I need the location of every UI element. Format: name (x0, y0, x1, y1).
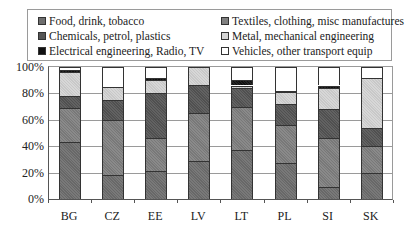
bar-segment (231, 150, 253, 199)
gridline (49, 146, 392, 147)
x-tick-label: CZ (92, 209, 132, 224)
bar-segment (275, 104, 297, 125)
legend-label: Metal, mechanical engineering (232, 29, 374, 43)
legend-swatch-metal-icon (221, 32, 229, 40)
legend-label: Vehicles, other transport equip (232, 44, 373, 58)
bar-segment-vehicles (318, 67, 340, 85)
bar-segment (318, 187, 340, 199)
legend-swatch-food-icon (38, 17, 46, 25)
bar-segment-vehicles (102, 67, 124, 87)
bar-segment-vehicles (231, 67, 253, 80)
bar-segment (361, 146, 383, 172)
x-tick (264, 200, 265, 203)
x-tick (91, 200, 92, 203)
bar-segment (275, 163, 297, 199)
bar-segment (59, 108, 81, 142)
bar-segment (102, 120, 124, 175)
legend-item-metal: Metal, mechanical engineering (221, 29, 374, 43)
x-tick-label: SI (308, 209, 348, 224)
bar-segment (318, 86, 340, 89)
bar-segment (59, 72, 81, 96)
bar-segment (188, 161, 210, 199)
bar-segment (275, 125, 297, 163)
legend-item-textiles: Textiles, clothing, misc manufactures (221, 14, 404, 28)
x-tick-label: BG (49, 209, 89, 224)
x-tick (350, 200, 351, 203)
x-tick (134, 200, 135, 203)
y-tick-label: 0% (4, 192, 44, 207)
bar-sk (361, 67, 383, 199)
legend-item-food: Food, drink, tobacco (38, 14, 144, 28)
bar-segment (145, 80, 167, 93)
y-tick-label: 80% (4, 86, 44, 101)
legend-item-chemicals: Chemicals, petrol, plastics (38, 29, 170, 43)
bar-pl (275, 67, 297, 199)
legend-label: Chemicals, petrol, plastics (49, 29, 170, 43)
x-tick-label: SK (351, 209, 391, 224)
bar-segment (188, 85, 210, 113)
bar-segment (188, 67, 210, 85)
bar-segment-vehicles (59, 67, 81, 70)
gridline (49, 120, 392, 121)
bar-segment (145, 93, 167, 138)
bar-segment (361, 78, 383, 128)
bar-segment (231, 80, 253, 85)
bar-ee (145, 67, 167, 199)
legend-item-electrical: Electrical engineering, Radio, TV (38, 44, 204, 58)
bar-segment (318, 138, 340, 187)
legend-swatch-vehicles-icon (221, 47, 229, 55)
bar-segment (102, 100, 124, 120)
bar-lv (188, 67, 210, 199)
bar-segment (102, 87, 124, 100)
legend-swatch-electrical-icon (38, 47, 46, 55)
bar-segment (231, 107, 253, 151)
bar-segment (59, 70, 81, 73)
bar-segment (361, 173, 383, 199)
legend-label: Textiles, clothing, misc manufactures (232, 14, 404, 28)
legend-label: Electrical engineering, Radio, TV (49, 44, 204, 58)
bar-cz (102, 67, 124, 199)
legend-swatch-chemicals-icon (38, 32, 46, 40)
bar-si (318, 67, 340, 199)
gridline (49, 93, 392, 94)
bar-segment-vehicles (275, 67, 297, 91)
x-tick (220, 200, 221, 203)
y-tick-label: 60% (4, 113, 44, 128)
x-tick (48, 200, 49, 203)
bar-segment-vehicles (145, 67, 167, 78)
gridline (49, 173, 392, 174)
bar-segment (188, 113, 210, 161)
x-tick-label: PL (265, 209, 305, 224)
legend-item-vehicles: Vehicles, other transport equip (221, 44, 373, 58)
y-tick-label: 100% (4, 60, 44, 75)
bar-segment (361, 128, 383, 146)
x-tick (177, 200, 178, 203)
y-tick-label: 40% (4, 139, 44, 154)
legend-label: Food, drink, tobacco (49, 14, 144, 28)
bar-segment (145, 78, 167, 81)
x-tick (307, 200, 308, 203)
bar-segment (231, 86, 253, 89)
bar-segment (318, 88, 340, 109)
bar-segment-vehicles (361, 67, 383, 78)
bar-segment (59, 142, 81, 199)
plot-area (48, 66, 393, 200)
bar-segment (102, 175, 124, 199)
x-tick (393, 200, 394, 203)
chart-legend: Food, drink, tobacco Textiles, clothing,… (27, 9, 392, 61)
bar-lt (231, 67, 253, 199)
bar-bg (59, 67, 81, 199)
legend-swatch-textiles-icon (221, 17, 229, 25)
bar-segment (318, 109, 340, 138)
x-tick-label: LT (221, 209, 261, 224)
x-tick-label: LV (178, 209, 218, 224)
bar-segment (145, 171, 167, 199)
bar-segment (59, 96, 81, 108)
bar-segment (275, 91, 297, 92)
bar-segment (231, 88, 253, 106)
y-tick-label: 20% (4, 166, 44, 181)
x-tick-label: EE (135, 209, 175, 224)
bar-segment (275, 92, 297, 104)
bar-segment (145, 138, 167, 171)
